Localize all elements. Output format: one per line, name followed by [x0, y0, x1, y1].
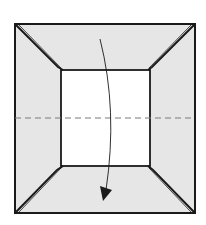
origami-diagram [0, 0, 206, 225]
